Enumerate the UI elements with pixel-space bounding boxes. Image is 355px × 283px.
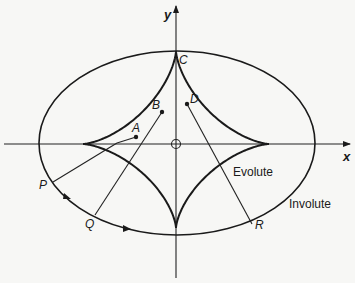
point-D-label: D — [190, 93, 199, 105]
direction-arrow-icon — [63, 193, 71, 199]
direction-arrow-icon — [123, 225, 131, 232]
normal-line-R — [187, 104, 252, 224]
tangent-line-A — [117, 137, 136, 143]
point-A-label: A — [132, 122, 140, 134]
point-A-dot — [134, 135, 138, 139]
point-D-dot — [185, 102, 189, 106]
point-B-dot — [160, 110, 164, 114]
involute-ellipse — [39, 51, 315, 235]
normal-line-P — [53, 143, 117, 182]
y-axis-label: y — [164, 8, 171, 21]
involute-label: Involute — [289, 198, 331, 210]
evolute-label: Evolute — [233, 166, 273, 178]
point-B-label: B — [152, 99, 160, 111]
x-axis-label: x — [343, 150, 350, 163]
involute-evolute-diagram: y x C B D A P Q R Evolute Involute — [0, 0, 355, 283]
point-C-label: C — [179, 54, 188, 66]
diagram-graphics — [0, 0, 355, 283]
point-Q-label: Q — [85, 218, 94, 230]
normal-line-Q — [95, 112, 162, 215]
point-R-label: R — [255, 219, 264, 231]
point-P-label: P — [39, 179, 47, 191]
